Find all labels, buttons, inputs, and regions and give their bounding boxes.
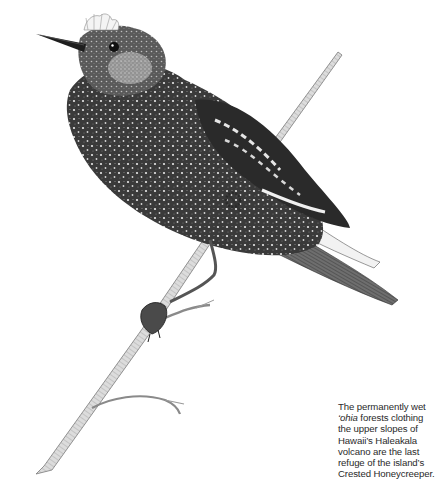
caption-line-6: refuge of the island’s [338,457,444,468]
caption-line-7: Crested Honeycreeper. [338,468,444,479]
caption-line-3: the upper slopes of [338,423,444,434]
caption-italic-ohia: ‘ohia [338,412,358,423]
eye [109,42,119,52]
caption-line-2: ‘ohia forests clothing [338,412,444,423]
bird-head [36,14,166,96]
caption-line-1: The permanently wet [338,401,444,412]
caption: The permanently wet ‘ohia forests clothi… [338,401,444,479]
caption-line-2-rest: forests clothing [358,412,424,423]
caption-line-5: volcano are the last [338,446,444,457]
caption-line-4: Hawaii’s Haleakala [338,435,444,446]
